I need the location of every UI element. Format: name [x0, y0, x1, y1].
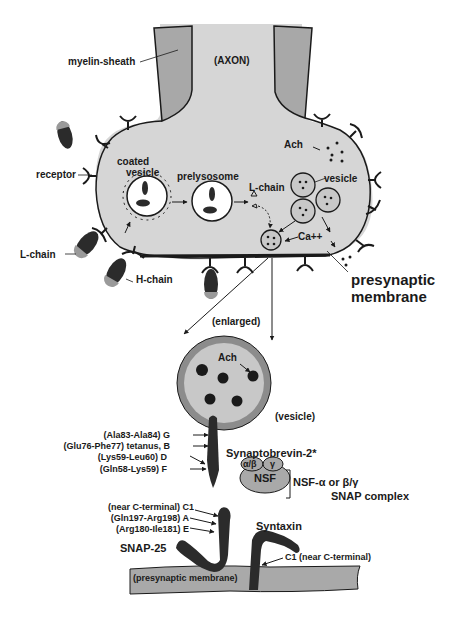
axon-label: (AXON)	[214, 56, 250, 66]
presynaptic-membrane-label-1: presynaptic	[351, 271, 435, 288]
vesicle-label: vesicle	[324, 174, 357, 184]
site-a: (Gln197-Arg198) A	[111, 514, 189, 523]
synaptobrevin-label: Synaptobrevin-2*	[226, 448, 316, 459]
site-e: (Arg180-Ile181) E	[116, 525, 189, 534]
enlarged-ach-label: Ach	[218, 353, 237, 363]
nsf-complex-label-2: SNAP complex	[331, 491, 409, 502]
neurotoxin-diagram	[0, 0, 449, 617]
alpha-beta-label: α/β	[243, 460, 257, 469]
l-chain-outside-label: L-chain	[20, 250, 56, 260]
site-f: (Gln58-Lys59) F	[100, 465, 167, 474]
enlarged-vesicle-label: (vesicle)	[275, 412, 315, 422]
prelysosome-label: prelysosome	[177, 172, 239, 182]
site-d: (Lys59-Leu60) D	[98, 453, 167, 462]
coated-label-1: coated	[117, 157, 149, 167]
snap25-label: SNAP-25	[120, 543, 166, 554]
nsf-label: NSF	[254, 473, 276, 484]
site-b: (Glu76-Phe77) tetanus, B	[63, 442, 170, 451]
syntaxin-label: Syntaxin	[256, 521, 302, 532]
coated-label-2: vesicle	[126, 168, 159, 178]
nsf-complex-label-1: NSF-α or β/γ	[293, 477, 358, 488]
site-g: (Ala83-Ala84) G	[103, 431, 170, 440]
syntaxin-site-label: C1 (near C-terminal)	[285, 553, 371, 562]
receptor-label: receptor	[36, 170, 76, 180]
gamma-label: γ	[270, 460, 275, 469]
myelin-sheath-label: myelin-sheath	[68, 57, 135, 67]
synaptobrevin-protein	[207, 416, 219, 489]
prelysosome	[192, 181, 232, 221]
calcium-label: Ca++	[298, 232, 322, 242]
ach-label: Ach	[284, 140, 303, 150]
enlarged-label: (enlarged)	[212, 317, 260, 327]
h-chain-label: H-chain	[136, 275, 173, 285]
site-c1: (near C-terminal) C1	[108, 503, 194, 512]
l-chain-inside-label: L-chain	[249, 183, 285, 193]
presynaptic-membrane-label-2: membrane	[351, 288, 427, 305]
enlarged-vesicle	[177, 336, 271, 430]
membrane-strip-label: (presynaptic membrane)	[133, 574, 238, 583]
